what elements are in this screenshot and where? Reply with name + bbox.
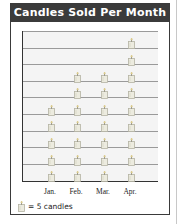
x-axis-label: Mar. xyxy=(91,187,115,196)
candle-icon xyxy=(48,101,55,112)
candle-icon xyxy=(101,151,108,162)
legend-text: = 5 candles xyxy=(28,202,73,211)
candle-icon xyxy=(128,134,135,145)
grid-line xyxy=(23,97,158,98)
page-edge-line xyxy=(176,0,177,224)
candle-icon xyxy=(128,51,135,62)
grid-line xyxy=(23,81,158,82)
candle-icon xyxy=(74,151,81,162)
candle-icon xyxy=(101,134,108,145)
candle-icon xyxy=(18,201,25,212)
candle-icon xyxy=(74,134,81,145)
candle-icon xyxy=(74,117,81,128)
pictograph-frame: Candles Sold Per Month Jan.Feb.Mar.Apr. … xyxy=(10,3,170,215)
grid-line xyxy=(23,48,158,49)
candle-icon xyxy=(48,117,55,128)
x-axis-label: Apr. xyxy=(118,187,142,196)
candle-icon xyxy=(101,68,108,79)
candle-icon xyxy=(74,101,81,112)
candle-icon xyxy=(128,117,135,128)
chart-title: Candles Sold Per Month xyxy=(11,4,169,22)
candle-icon xyxy=(128,151,135,162)
pictograph-grid xyxy=(22,31,158,182)
grid-line xyxy=(23,64,158,65)
candle-icon xyxy=(74,68,81,79)
candle-icon xyxy=(74,84,81,95)
grid-line xyxy=(23,164,158,165)
candle-icon xyxy=(48,151,55,162)
candle-icon xyxy=(128,101,135,112)
candle-icon xyxy=(101,84,108,95)
candle-icon xyxy=(128,68,135,79)
candle-icon xyxy=(128,34,135,45)
grid-line xyxy=(23,147,158,148)
candle-icon xyxy=(128,167,135,178)
candle-icon xyxy=(101,101,108,112)
grid-line xyxy=(23,31,158,32)
grid-line xyxy=(23,114,158,115)
legend: = 5 candles xyxy=(18,200,73,212)
candle-icon xyxy=(101,117,108,128)
grid-line xyxy=(23,131,158,132)
candle-icon xyxy=(128,84,135,95)
candle-icon xyxy=(48,134,55,145)
candle-icon xyxy=(74,167,81,178)
candle-icon xyxy=(48,167,55,178)
candle-icon xyxy=(101,167,108,178)
x-axis-label: Feb. xyxy=(64,187,88,196)
x-axis-label: Jan. xyxy=(38,187,62,196)
